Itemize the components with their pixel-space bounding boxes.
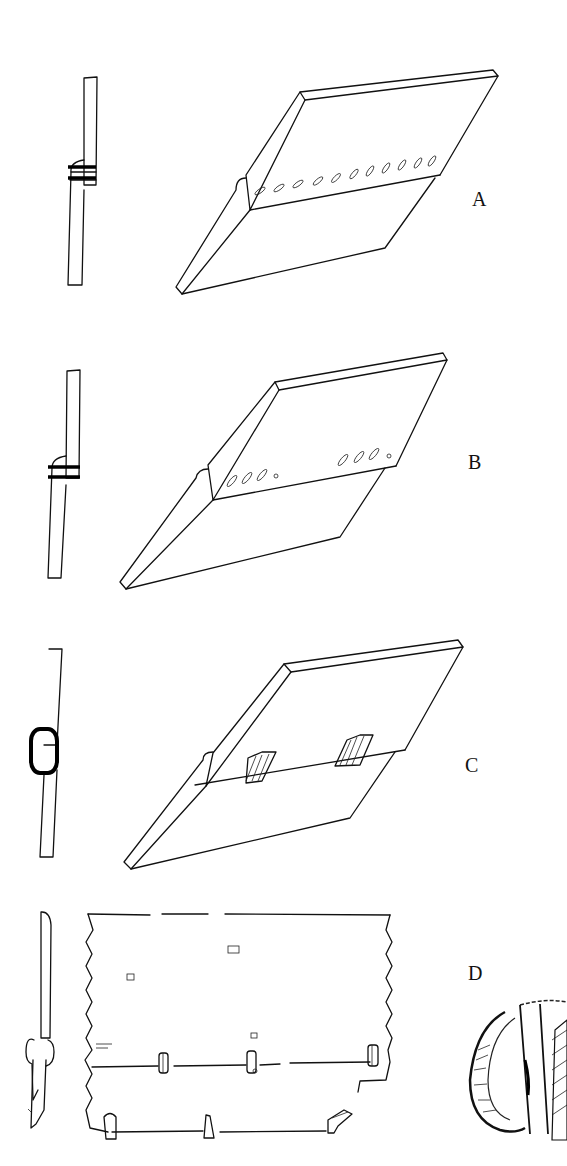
hole-mark (127, 974, 134, 980)
panel-c: C (31, 640, 478, 869)
lashing-holes-group-left (226, 468, 278, 488)
panel-d-side-section (26, 912, 54, 1128)
lashing-holes-row (254, 155, 437, 196)
panel-b: B (48, 353, 481, 589)
stitches-lower-seam (104, 1110, 352, 1139)
stitches-upper-seam (159, 1045, 378, 1073)
panel-a-board-view (176, 70, 498, 294)
panel-label-a: A (472, 188, 487, 210)
panel-c-board-view (124, 640, 463, 869)
panel-label-c: C (465, 754, 478, 776)
lashing-holes-group-right (337, 447, 391, 467)
panel-label-d: D (468, 962, 482, 984)
hole-mark (228, 946, 239, 953)
panel-b-side-section (48, 370, 80, 578)
panel-label-b: B (468, 451, 481, 473)
lashing-bundle-left (246, 752, 276, 783)
panel-b-board-view (120, 353, 447, 589)
panel-c-side-section (31, 649, 62, 857)
panel-a-side-section (68, 77, 97, 285)
hole-mark (251, 1033, 257, 1038)
panel-a: A (68, 70, 498, 294)
panel-d: D (26, 912, 567, 1140)
boat-planking-fastening-diagram: A (0, 0, 567, 1166)
panel-d-plank-plan (85, 914, 392, 1139)
coiled-binding-detail (470, 1001, 567, 1140)
loop-icon (31, 729, 57, 773)
